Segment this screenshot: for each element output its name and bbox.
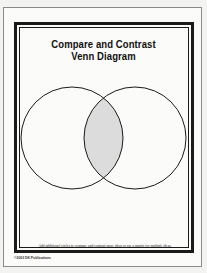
- overlap-region: [84, 87, 186, 189]
- instruction-footnote: Add additional circles to compare and co…: [22, 244, 188, 248]
- venn-diagram: [0, 0, 207, 273]
- publisher-credit: ©2003 DK Publications: [14, 256, 51, 260]
